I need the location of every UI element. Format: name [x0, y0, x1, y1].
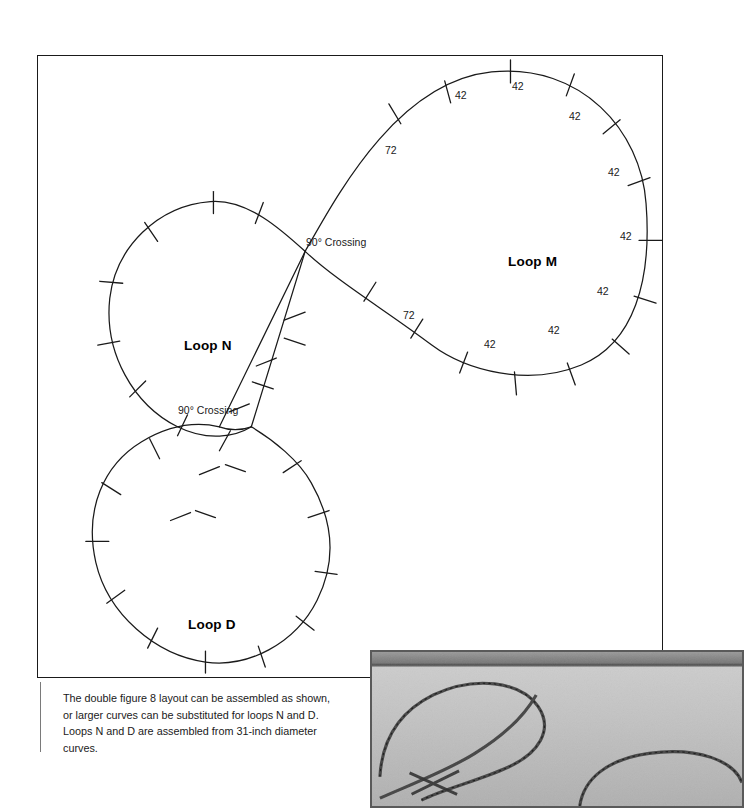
lower-diagonal-straight [219, 251, 305, 426]
segment-number: 42 [569, 110, 581, 122]
loop-label-m: Loop M [508, 254, 557, 269]
diagram-frame: Loop M Loop N Loop D 90° Crossing 90° Cr… [37, 55, 663, 678]
segment-number: 72 [385, 144, 397, 156]
layout-photo-image [372, 652, 742, 806]
segment-number: 42 [512, 80, 524, 92]
track-layout-drawing [38, 56, 662, 677]
crossing-label-upper: 90° Crossing [306, 236, 366, 248]
segment-number: 42 [484, 338, 496, 350]
caption-block: The double figure 8 layout can be assemb… [40, 682, 340, 760]
segment-number: 42 [597, 285, 609, 297]
upper-diagonal-straight [251, 251, 305, 426]
segment-number: 72 [403, 309, 415, 321]
segment-number: 42 [548, 324, 560, 336]
layout-photo [370, 650, 744, 808]
loop-n-curve [109, 201, 305, 436]
crossing-label-lower: 90° Crossing [178, 404, 238, 416]
segment-number: 42 [455, 89, 467, 101]
loop-m-curve [305, 71, 647, 375]
segment-number: 42 [608, 166, 620, 178]
caption-vertical-rule [40, 682, 41, 752]
segment-number: 42 [620, 230, 632, 242]
caption-text: The double figure 8 layout can be assemb… [63, 690, 335, 756]
loop-label-d: Loop D [188, 617, 236, 632]
loop-d-ties [86, 439, 337, 673]
loop-label-n: Loop N [184, 338, 232, 353]
